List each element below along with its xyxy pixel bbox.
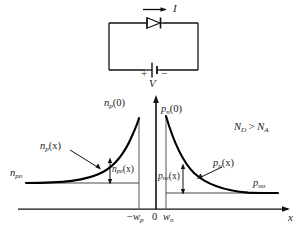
n-pe-x-label: npe(x) <box>112 165 134 175</box>
doping-condition-label: ND > NA <box>234 122 269 134</box>
x-tick-minus-wp-main: −w <box>126 211 140 222</box>
diode-icon <box>147 18 163 29</box>
doping-nd-main: N <box>234 121 241 132</box>
current-arrow-icon <box>143 7 167 12</box>
p-n-zero-label: pn(0) <box>161 104 182 116</box>
current-label: I <box>173 3 177 14</box>
battery-plus-label: + <box>141 68 147 79</box>
doping-na-sub: A <box>264 126 268 134</box>
x-tick-wn: wn <box>163 212 174 224</box>
p-n-x-tail: (x) <box>222 157 234 168</box>
y-axis-arrow-icon <box>153 95 159 103</box>
x-axis-label: x <box>288 212 293 223</box>
figure-canvas <box>0 0 305 239</box>
p-no-sub: no <box>258 182 265 190</box>
p-ne-x-label: pne(x) <box>158 172 180 182</box>
p-ne-x-measure-arrow-up <box>181 164 185 170</box>
doping-relation: > <box>246 121 257 132</box>
n-p-zero-label: np(0) <box>104 98 125 110</box>
n-pe-x-measure-arrow-down <box>108 179 112 185</box>
current-arrow-head <box>161 7 167 12</box>
n-p-x-pointer-line <box>70 150 99 168</box>
n-po-sub: po <box>15 172 22 180</box>
n-po-label: npo <box>10 168 22 180</box>
battery-minus-label: − <box>161 68 167 79</box>
voltage-label: V <box>149 78 156 89</box>
x-tick-zero: 0 <box>152 212 157 223</box>
n-pe-x-tail: (x) <box>123 164 134 174</box>
p-ne-x-measure <box>181 164 185 195</box>
diode-triangle <box>147 18 160 28</box>
n-p-zero-tail: (0) <box>113 97 125 108</box>
x-tick-wn-main: w <box>163 211 170 222</box>
forward-biased-diode-circuit <box>109 23 198 70</box>
x-tick-minus-wp-sub: p <box>140 216 144 224</box>
p-no-label: pno <box>253 178 265 190</box>
pn-junction-figure: I + − V np(0) np(x) npe(x) npo pn(0) pn(… <box>0 0 305 239</box>
n-p-x-tail: (x) <box>49 140 61 151</box>
x-tick-minus-wp: −wp <box>126 212 144 224</box>
n-pe-x-measure-arrow-up <box>108 158 112 164</box>
y-axis <box>153 95 159 209</box>
p-ne-x-tail: (x) <box>169 171 180 181</box>
n-p-x-label: np(x) <box>40 141 61 153</box>
battery-icon <box>145 63 160 78</box>
n-p-x-pointer <box>70 150 101 170</box>
n-p-x-pointer-head <box>95 164 101 170</box>
x-tick-wn-sub: n <box>170 216 174 224</box>
p-n-zero-tail: (0) <box>170 103 182 114</box>
p-ne-x-measure-arrow-down <box>181 189 185 195</box>
p-n-x-label: pn(x) <box>213 158 234 170</box>
